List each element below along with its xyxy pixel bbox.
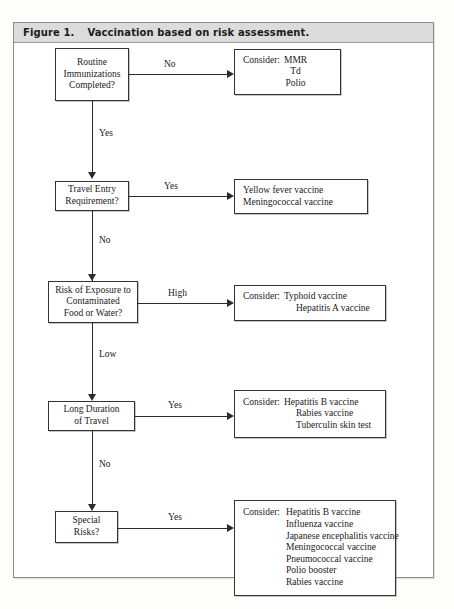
arrow-head-icon [227,192,234,200]
outcome-prefix: Consider: [235,55,280,90]
edge-label-routine-no: No [162,59,178,70]
outcome-item: Typhoid vaccine [284,291,370,303]
edge-label-duration-no: No [97,459,113,470]
edge-routine-to-travel [92,101,93,173]
figure-titlebar: Figure 1. Vaccination based on risk asse… [14,23,433,43]
edge-duration-to-special [92,431,93,504]
figure-number-label: Figure 1. [14,27,74,38]
figure-frame: Figure 1. Vaccination based on risk asse… [13,22,434,578]
edge-duration-to-outcome [135,416,229,417]
decision-line: Risks? [70,527,103,539]
arrow-head-icon [227,299,234,307]
outcome-content: Consider: Hepatitis B vaccine Influenza … [235,507,399,588]
decision-travel-entry-requirement[interactable]: Travel Entry Requirement? [55,181,129,211]
edge-label-travel-no: No [97,235,113,246]
decision-line: Food or Water? [60,308,127,320]
decision-line: Routine [73,57,111,69]
outcome-prefix: Consider: [235,291,280,314]
decision-line: Contaminated [62,296,123,308]
arrow-head-icon [227,70,234,78]
decision-risk-of-exposure[interactable]: Risk of Exposure to Contaminated Food or… [48,281,138,323]
figure-caption: Vaccination based on risk assessment. [74,27,309,38]
decision-line: Risk of Exposure to [51,285,135,297]
outcome-long-duration[interactable]: Consider: Hepatitis B vaccine Rabies vac… [234,390,386,438]
outcome-content: Consider: Hepatitis B vaccine Rabies vac… [235,397,371,432]
outcome-item: Polio [284,78,307,90]
edge-label-duration-yes: Yes [166,400,184,411]
edge-label-travel-yes: Yes [162,181,180,192]
edge-label-special-yes: Yes [166,512,184,523]
arrow-head-icon [88,504,96,511]
outcome-prefix: Consider: [235,507,280,588]
outcome-special-risks[interactable]: Consider: Hepatitis B vaccine Influenza … [234,500,396,596]
outcome-item: Meningococcal vaccine [243,197,333,209]
outcome-item: Meningococcal vaccine [286,542,399,554]
outcome-content: Consider: Typhoid vaccine Hepatitis A va… [235,291,370,314]
arrow-head-icon [227,412,234,420]
edge-risk-to-duration [92,323,93,394]
flowchart-canvas: Routine Immunizations Completed? No Cons… [14,43,433,578]
outcome-items: Hepatitis B vaccine Rabies vaccine Tuber… [280,397,371,432]
decision-line: Completed? [65,80,119,92]
outcome-item: Pneumococcal vaccine [286,554,399,566]
outcome-items: Typhoid vaccine Hepatitis A vaccine [280,291,370,314]
outcome-item: Polio booster [286,565,399,577]
decision-long-duration-of-travel[interactable]: Long Duration of Travel [48,401,135,431]
edge-special-to-outcome [118,528,229,529]
decision-routine-immunizations[interactable]: Routine Immunizations Completed? [55,48,129,101]
edge-risk-to-outcome [138,303,229,304]
outcome-content: Consider: MMR Td Polio [235,55,307,90]
outcome-item: Hepatitis B vaccine [284,397,371,409]
outcome-item: Hepatitis B vaccine [286,507,399,519]
arrow-head-icon [227,524,234,532]
edge-travel-to-outcome [129,196,229,197]
outcome-item: Tuberculin skin test [284,420,371,432]
edge-label-risk-low: Low [97,349,118,360]
decision-line: Special [69,515,105,527]
outcome-item: Japanese encephalitis vaccine [286,531,399,543]
decision-line: of Travel [70,416,113,428]
figure-page: Figure 1. Vaccination based on risk asse… [0,0,454,609]
edge-label-risk-high: High [166,288,189,299]
outcome-item: Hepatitis A vaccine [284,303,370,315]
decision-line: Travel Entry [64,184,120,196]
outcome-item: Rabies vaccine [286,577,399,589]
edge-routine-to-outcome [129,74,229,75]
outcome-prefix: Consider: [235,397,280,432]
outcome-item: Rabies vaccine [284,408,371,420]
edge-travel-to-risk [92,211,93,281]
outcome-risk-of-exposure[interactable]: Consider: Typhoid vaccine Hepatitis A va… [234,285,386,321]
decision-line: Immunizations [60,69,125,81]
outcome-routine-immunizations[interactable]: Consider: MMR Td Polio [234,49,341,95]
decision-line: Requirement? [61,196,122,208]
outcome-items: Yellow fever vaccine Meningococcal vacci… [235,185,333,208]
decision-line: Long Duration [59,404,123,416]
outcome-item: MMR [284,55,307,67]
outcome-items: MMR Td Polio [280,55,307,90]
outcome-item: Influenza vaccine [286,519,399,531]
arrow-head-icon [88,394,96,401]
decision-special-risks[interactable]: Special Risks? [55,511,118,543]
outcome-item: Td [284,66,307,78]
outcome-travel-entry[interactable]: Yellow fever vaccine Meningococcal vacci… [234,179,368,214]
outcome-items: Hepatitis B vaccine Influenza vaccine Ja… [280,507,399,588]
arrow-head-icon [88,172,96,179]
outcome-item: Yellow fever vaccine [243,185,333,197]
arrow-head-icon [88,274,96,281]
edge-label-routine-yes: Yes [97,128,115,139]
